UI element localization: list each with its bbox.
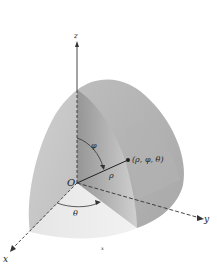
y-axis-label: y (203, 214, 210, 224)
rho-label: ρ (108, 171, 114, 180)
z-axis-label: z (73, 32, 78, 40)
point-marker (126, 158, 130, 162)
origin-label: O (67, 177, 75, 188)
x-axis-arrow-icon (10, 245, 16, 252)
phi-label: φ (91, 141, 97, 150)
theta-label: θ (73, 209, 78, 218)
spherical-coordinates-diagram: z y x O (ρ, φ, θ) ρ φ θ x (0, 0, 217, 267)
point-label: (ρ, φ, θ) (132, 155, 164, 164)
x-axis-label: x (3, 254, 8, 264)
y-axis-arrow-icon (197, 215, 204, 221)
z-axis-arrow-icon (75, 41, 79, 47)
bottom-mark-label: x (101, 245, 104, 251)
